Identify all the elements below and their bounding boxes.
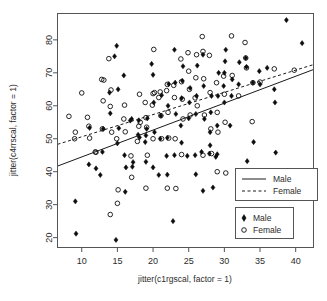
x-tick-label: 20: [148, 256, 158, 266]
fit-lines-legend: Male Female: [236, 169, 318, 201]
x-tick-label: 10: [77, 256, 87, 266]
y-tick-label: 70: [44, 68, 54, 78]
y-tick-label: 50: [44, 134, 54, 144]
y-axis-title: jitter(c4rrscal, factor = 1): [8, 84, 18, 177]
y-tick-label: 60: [44, 101, 54, 111]
fit-legend-label-male: Male: [273, 174, 292, 184]
y-tick-label: 80: [44, 35, 54, 45]
x-tick-label: 40: [291, 256, 301, 266]
points-legend: Male Female: [236, 208, 294, 239]
y-tick-label: 40: [44, 167, 54, 177]
x-tick-label: 15: [112, 256, 122, 266]
x-axis-title: jitter(c1rgscal, factor = 1): [137, 274, 232, 284]
scatter-plot: 10152025303540 20304050607080 jitter(c1r…: [0, 0, 327, 301]
x-tick-label: 25: [184, 256, 194, 266]
x-tick-label: 35: [255, 256, 265, 266]
fit-legend-label-female: Female: [273, 186, 302, 196]
y-tick-label: 20: [44, 233, 54, 243]
y-tick-label: 30: [44, 200, 54, 210]
points-legend-label-male: Male: [253, 213, 272, 223]
x-tick-label: 30: [219, 256, 229, 266]
points-legend-label-female: Female: [253, 225, 282, 235]
chart-root: 10152025303540 20304050607080 jitter(c1r…: [0, 0, 327, 301]
